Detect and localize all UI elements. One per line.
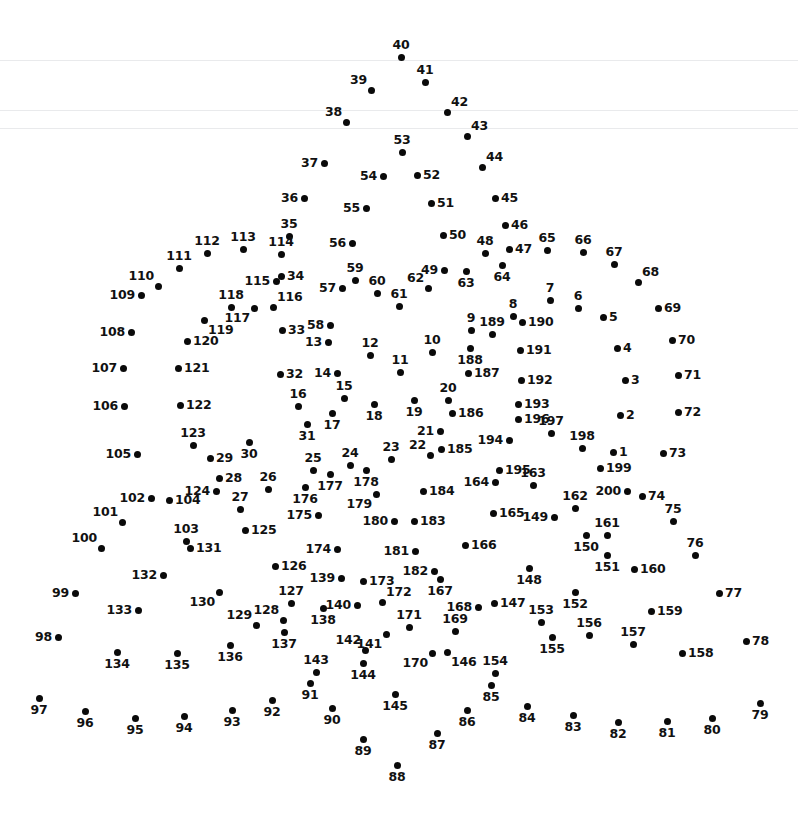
puzzle-dot[interactable] (464, 707, 471, 714)
puzzle-dot[interactable] (251, 305, 258, 312)
puzzle-dot[interactable] (631, 566, 638, 573)
puzzle-dot[interactable] (449, 410, 456, 417)
puzzle-dot[interactable] (174, 650, 181, 657)
puzzle-dot[interactable] (429, 349, 436, 356)
puzzle-dot[interactable] (639, 493, 646, 500)
puzzle-dot[interactable] (397, 369, 404, 376)
puzzle-dot[interactable] (347, 462, 354, 469)
puzzle-dot[interactable] (229, 707, 236, 714)
puzzle-dot[interactable] (530, 482, 537, 489)
puzzle-dot[interactable] (624, 488, 631, 495)
puzzle-dot[interactable] (327, 471, 334, 478)
puzzle-dot[interactable] (492, 479, 499, 486)
puzzle-dot[interactable] (604, 552, 611, 559)
puzzle-dot[interactable] (422, 79, 429, 86)
puzzle-dot[interactable] (518, 377, 525, 384)
puzzle-dot[interactable] (338, 575, 345, 582)
puzzle-dot[interactable] (597, 465, 604, 472)
puzzle-dot[interactable] (242, 527, 249, 534)
puzzle-dot[interactable] (360, 736, 367, 743)
puzzle-dot[interactable] (184, 338, 191, 345)
puzzle-dot[interactable] (253, 622, 260, 629)
puzzle-dot[interactable] (544, 247, 551, 254)
puzzle-dot[interactable] (190, 442, 197, 449)
puzzle-dot[interactable] (295, 403, 302, 410)
puzzle-dot[interactable] (515, 401, 522, 408)
puzzle-dot[interactable] (431, 568, 438, 575)
puzzle-dot[interactable] (444, 649, 451, 656)
puzzle-dot[interactable] (429, 650, 436, 657)
puzzle-dot[interactable] (399, 149, 406, 156)
puzzle-dot[interactable] (630, 641, 637, 648)
puzzle-dot[interactable] (425, 285, 432, 292)
puzzle-dot[interactable] (622, 377, 629, 384)
puzzle-dot[interactable] (572, 505, 579, 512)
puzzle-dot[interactable] (343, 119, 350, 126)
puzzle-dot[interactable] (120, 365, 127, 372)
puzzle-dot[interactable] (307, 680, 314, 687)
puzzle-dot[interactable] (679, 650, 686, 657)
puzzle-dot[interactable] (648, 608, 655, 615)
puzzle-dot[interactable] (414, 172, 421, 179)
puzzle-dot[interactable] (669, 337, 676, 344)
puzzle-dot[interactable] (510, 313, 517, 320)
puzzle-dot[interactable] (55, 634, 62, 641)
puzzle-dot[interactable] (482, 250, 489, 257)
puzzle-dot[interactable] (82, 708, 89, 715)
puzzle-dot[interactable] (315, 512, 322, 519)
puzzle-dot[interactable] (273, 278, 280, 285)
puzzle-dot[interactable] (388, 456, 395, 463)
puzzle-dot[interactable] (412, 548, 419, 555)
puzzle-dot[interactable] (121, 403, 128, 410)
puzzle-dot[interactable] (135, 607, 142, 614)
puzzle-dot[interactable] (265, 486, 272, 493)
puzzle-dot[interactable] (506, 246, 513, 253)
puzzle-dot[interactable] (227, 642, 234, 649)
puzzle-dot[interactable] (354, 602, 361, 609)
puzzle-dot[interactable] (216, 475, 223, 482)
puzzle-dot[interactable] (177, 402, 184, 409)
puzzle-dot[interactable] (360, 578, 367, 585)
puzzle-dot[interactable] (138, 292, 145, 299)
puzzle-dot[interactable] (615, 719, 622, 726)
puzzle-dot[interactable] (463, 268, 470, 275)
puzzle-dot[interactable] (98, 545, 105, 552)
puzzle-dot[interactable] (341, 395, 348, 402)
puzzle-dot[interactable] (183, 538, 190, 545)
puzzle-dot[interactable] (272, 563, 279, 570)
puzzle-dot[interactable] (411, 397, 418, 404)
puzzle-dot[interactable] (371, 401, 378, 408)
puzzle-dot[interactable] (288, 600, 295, 607)
puzzle-dot[interactable] (434, 730, 441, 737)
puzzle-dot[interactable] (339, 285, 346, 292)
puzzle-dot[interactable] (334, 370, 341, 377)
puzzle-dot[interactable] (148, 495, 155, 502)
puzzle-dot[interactable] (583, 532, 590, 539)
puzzle-dot[interactable] (204, 250, 211, 257)
puzzle-dot[interactable] (313, 669, 320, 676)
puzzle-dot[interactable] (490, 510, 497, 517)
puzzle-dot[interactable] (575, 305, 582, 312)
puzzle-dot[interactable] (444, 109, 451, 116)
puzzle-dot[interactable] (394, 762, 401, 769)
puzzle-dot[interactable] (367, 352, 374, 359)
puzzle-dot[interactable] (538, 619, 545, 626)
puzzle-dot[interactable] (551, 514, 558, 521)
puzzle-dot[interactable] (517, 347, 524, 354)
puzzle-dot[interactable] (757, 700, 764, 707)
puzzle-dot[interactable] (302, 484, 309, 491)
puzzle-dot[interactable] (452, 628, 459, 635)
puzzle-dot[interactable] (213, 488, 220, 495)
puzzle-dot[interactable] (499, 262, 506, 269)
puzzle-dot[interactable] (492, 195, 499, 202)
puzzle-dot[interactable] (445, 397, 452, 404)
puzzle-dot[interactable] (692, 552, 699, 559)
puzzle-dot[interactable] (379, 599, 386, 606)
puzzle-dot[interactable] (201, 317, 208, 324)
puzzle-dot[interactable] (175, 365, 182, 372)
puzzle-dot[interactable] (570, 712, 577, 719)
puzzle-dot[interactable] (437, 428, 444, 435)
puzzle-dot[interactable] (548, 430, 555, 437)
puzzle-dot[interactable] (635, 279, 642, 286)
puzzle-dot[interactable] (660, 450, 667, 457)
